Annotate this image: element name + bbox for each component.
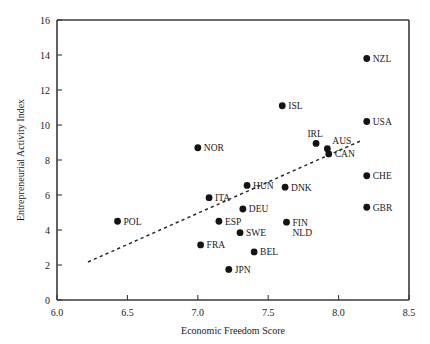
y-axis-title: Entrepreneurial Activity Index	[15, 99, 26, 221]
data-point-nor: NOR	[194, 143, 224, 153]
point-label-jpn: JPN	[235, 265, 251, 275]
point-label-esp: ESP	[225, 217, 241, 227]
y-tick-label: 2	[45, 260, 50, 271]
data-point-fra: FRA	[197, 240, 225, 250]
x-axis-title: Economic Freedom Score	[181, 325, 285, 336]
data-point-nld: NLD	[293, 228, 313, 238]
point-label-deu: DEU	[249, 204, 269, 214]
data-point-hun: HUN	[244, 181, 274, 191]
point-marker-deu	[239, 206, 246, 213]
y-tick-label: 14	[40, 50, 50, 61]
scatter-chart-figure: 02468101214166.06.57.07.58.08.5 NZLISLUS…	[0, 0, 430, 344]
point-marker-esp	[216, 218, 223, 225]
data-point-ita: ITA	[206, 193, 231, 203]
data-point-dnk: DNK	[282, 183, 312, 193]
data-point-bel: BEL	[251, 247, 279, 257]
data-point-gbr: GBR	[363, 203, 393, 213]
data-point-fin: FIN	[283, 218, 308, 228]
x-tick-label: 6.5	[121, 307, 134, 318]
point-label-che: CHE	[373, 171, 392, 181]
point-label-can: CAN	[335, 149, 355, 159]
point-label-isl: ISL	[288, 101, 302, 111]
data-point-esp: ESP	[216, 217, 242, 227]
x-tick-label: 7.0	[192, 307, 205, 318]
y-tick-label: 4	[45, 225, 50, 236]
y-tick-label: 8	[45, 155, 50, 166]
data-point-che: CHE	[363, 171, 392, 181]
data-point-isl: ISL	[279, 101, 303, 111]
point-marker-pol	[114, 218, 121, 225]
axis-ticks	[57, 20, 409, 300]
x-tick-label: 8.0	[332, 307, 345, 318]
x-tick-label: 8.5	[403, 307, 416, 318]
point-marker-swe	[237, 229, 244, 236]
plot-canvas: 02468101214166.06.57.07.58.08.5 NZLISLUS…	[0, 0, 430, 344]
point-marker-ita	[206, 194, 213, 201]
axes	[57, 20, 409, 300]
data-point-pol: POL	[114, 217, 142, 227]
point-label-pol: POL	[124, 217, 142, 227]
point-marker-isl	[279, 102, 286, 109]
point-label-swe: SWE	[246, 228, 266, 238]
point-label-ita: ITA	[215, 193, 230, 203]
data-point-deu: DEU	[239, 204, 268, 214]
point-label-gbr: GBR	[373, 203, 393, 213]
point-marker-bel	[251, 248, 258, 255]
data-point-irl: IRL	[307, 129, 323, 146]
point-label-dnk: DNK	[291, 183, 312, 193]
point-label-nld: NLD	[293, 228, 313, 238]
point-label-nzl: NZL	[373, 54, 392, 64]
data-point-jpn: JPN	[225, 265, 250, 275]
point-label-fin: FIN	[293, 218, 308, 228]
y-tick-label: 6	[45, 190, 50, 201]
point-marker-fin	[283, 219, 290, 226]
point-label-irl: IRL	[307, 129, 323, 139]
point-marker-hun	[244, 182, 251, 189]
x-tick-label: 6.0	[51, 307, 64, 318]
point-marker-dnk	[282, 184, 289, 191]
point-marker-nzl	[363, 55, 370, 62]
point-label-usa: USA	[373, 117, 392, 127]
data-point-usa: USA	[363, 117, 392, 127]
point-marker-usa	[363, 118, 370, 125]
point-marker-fra	[197, 241, 204, 248]
point-label-hun: HUN	[253, 181, 274, 191]
x-tick-label: 7.5	[262, 307, 275, 318]
y-tick-label: 10	[40, 120, 50, 131]
point-label-nor: NOR	[204, 143, 225, 153]
point-label-aus: AUS	[332, 136, 351, 146]
point-marker-gbr	[363, 204, 370, 211]
point-label-bel: BEL	[260, 247, 278, 257]
data-point-swe: SWE	[237, 228, 267, 238]
data-points: NZLISLUSAIRLAUSCANNORCHEGBRHUNDNKITADEUE…	[114, 54, 393, 275]
point-marker-can	[325, 150, 332, 157]
y-tick-label: 16	[40, 15, 50, 26]
y-tick-label: 0	[45, 295, 50, 306]
point-marker-jpn	[225, 266, 232, 273]
point-marker-irl	[313, 140, 320, 147]
data-point-nzl: NZL	[363, 54, 391, 64]
y-tick-label: 12	[40, 85, 50, 96]
data-point-can: CAN	[325, 149, 355, 159]
point-marker-nor	[194, 144, 201, 151]
point-label-fra: FRA	[207, 240, 226, 250]
point-marker-che	[363, 172, 370, 179]
